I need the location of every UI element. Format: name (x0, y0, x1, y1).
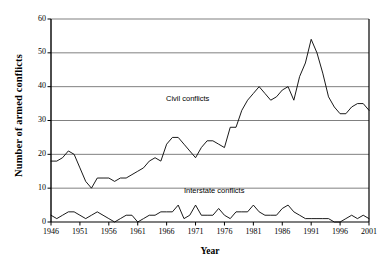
plot-area (0, 0, 382, 265)
y-tick-label-30: 30 (22, 116, 46, 124)
y-tick-label-40: 40 (22, 82, 46, 90)
y-tick-label-50: 50 (22, 48, 46, 56)
series-annotation-civil-conflicts: Civil conflicts (166, 94, 209, 103)
series-line-civil-conflicts (51, 39, 369, 188)
x-tick-label-2001: 2001 (351, 228, 382, 236)
x-axis-title: Year (51, 246, 369, 256)
series-line-interstate-conflicts (51, 205, 369, 222)
armed-conflicts-line-chart: Number of armed conflicts 60 50 40 30 20… (0, 0, 382, 265)
series-annotation-interstate-conflicts: Interstate conflicts (184, 186, 244, 195)
gridlines (51, 19, 369, 188)
y-tick-label-0: 0 (22, 218, 46, 226)
y-tick-label-20: 20 (22, 150, 46, 158)
y-tick-label-60: 60 (22, 15, 46, 23)
y-tick-label-10: 10 (22, 184, 46, 192)
